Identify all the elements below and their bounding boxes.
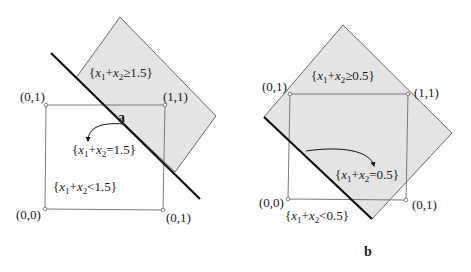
- vertex-label-top-right: (1,1): [163, 90, 188, 103]
- vertex-label-bottom-left: (0,0): [16, 208, 41, 221]
- vertex-dot-bottom-right: [161, 208, 165, 212]
- region-label-lt: {x1+x2<1.5}: [53, 180, 117, 196]
- figure-canvas: [0, 0, 471, 272]
- region-label-eq: {x1+x2=1.5}: [72, 143, 136, 159]
- region-label-ge: {x1+x2≥1.5}: [89, 66, 153, 82]
- region-label-lt: {x1+x2<0.5}: [285, 209, 349, 225]
- vertex-label-top-left: (0,1): [262, 80, 287, 93]
- vertex-dot-bottom-left: [286, 197, 290, 201]
- panel-b: [264, 25, 452, 219]
- vertex-label-bottom-left: (0,0): [259, 196, 284, 209]
- vertex-dot-top-right: [406, 92, 410, 96]
- region-label-ge: {x1+x2≥0.5}: [311, 69, 375, 85]
- region-label-eq: {x1+x2=0.5}: [335, 168, 399, 184]
- panel-caption-a: a: [118, 111, 125, 125]
- arrow-to-equality-label: [88, 124, 124, 141]
- vertex-dot-bottom-right: [404, 198, 408, 202]
- half-plane-region-ge-0.5: [264, 25, 452, 219]
- panel-caption-b: b: [364, 245, 372, 259]
- vertex-dot-top-left: [288, 92, 292, 96]
- vertex-label-bottom-right: (0,1): [166, 211, 191, 224]
- vertex-label-top-right: (1,1): [414, 86, 439, 99]
- vertex-label-top-left: (0,1): [20, 90, 45, 103]
- vertex-label-bottom-right: (0,1): [412, 198, 437, 211]
- vertex-dot-bottom-left: [43, 207, 47, 211]
